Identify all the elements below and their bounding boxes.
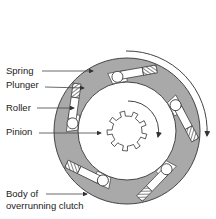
label-roller: Roller	[6, 102, 31, 113]
spring	[71, 83, 81, 98]
label-body-line2: overrunning clutch	[6, 200, 84, 211]
label-body-line1: Body of	[6, 188, 39, 199]
label-plunger: Plunger	[6, 79, 39, 90]
overrunning-clutch-diagram: Spring Plunger Roller Pinion Body of ove…	[0, 0, 216, 219]
label-pinion: Pinion	[6, 126, 32, 137]
label-spring: Spring	[6, 65, 33, 76]
